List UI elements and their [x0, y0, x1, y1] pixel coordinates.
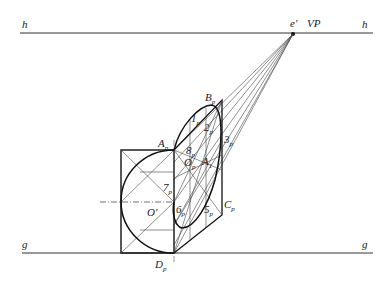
ground-label-right: g — [362, 238, 368, 250]
front-square — [121, 150, 174, 253]
vanishing-rays — [174, 34, 293, 253]
square-diagonals — [121, 150, 174, 253]
label-7: 7p — [163, 181, 173, 196]
label-D: Dp — [154, 258, 167, 273]
label-B: Bp — [205, 91, 216, 106]
label-6: 6p — [176, 203, 186, 218]
label-1: 1p — [191, 112, 201, 127]
label-2: 2p — [204, 121, 214, 136]
label-C: Cp — [224, 198, 235, 213]
label-O-prime: O' — [147, 206, 158, 218]
perspective-diagram: h h g g e' VP Bp Ap Cp Dp Op O' A1 1p 2p… — [0, 0, 390, 284]
label-3: 3p — [223, 133, 234, 148]
label-5: 5p — [204, 203, 214, 218]
ground-label-left: g — [22, 238, 28, 250]
semicircle — [121, 150, 174, 253]
vp-label: VP — [307, 17, 321, 29]
vp-e-label: e' — [290, 17, 298, 29]
horizon-label-right: h — [362, 18, 368, 30]
horizon-label-left: h — [22, 18, 28, 30]
